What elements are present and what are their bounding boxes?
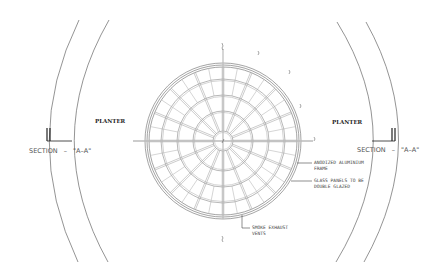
dome-sub-rib xyxy=(182,179,198,202)
plan-drawing: SECTION – "A–A" SECTION – "A–A" PLANTER … xyxy=(0,0,437,274)
dome-sub-rib xyxy=(261,100,284,116)
dome-sub-rib xyxy=(249,79,265,102)
annotation-frame: ANODIZED ALUMINIUM FRAME xyxy=(314,160,367,171)
planter-label-right: PLANTER xyxy=(332,119,363,125)
annotation-glass: GLASS PANELS TO BE DOUBLE GLAZED xyxy=(314,178,367,189)
left-outer-arc xyxy=(74,20,109,262)
section-label-left: SECTION – "A–A" xyxy=(29,147,91,155)
annotation-vents: SMOKE EXHAUST VENTS xyxy=(252,225,291,236)
dome-sub-rib xyxy=(182,79,198,102)
section-marker-right xyxy=(372,128,395,141)
dome-sub-rib xyxy=(161,167,184,183)
dome-sub-rib xyxy=(161,100,184,116)
skylight-dome xyxy=(133,49,313,219)
dome-sub-rib xyxy=(261,167,284,183)
planter-label-left: PLANTER xyxy=(95,118,126,124)
section-marker-left xyxy=(47,128,72,141)
dome-sub-rib xyxy=(249,179,265,202)
right-inner-arc xyxy=(336,22,373,262)
right-outer-arc xyxy=(364,22,399,262)
section-label-right: SECTION – "A–A" xyxy=(357,146,419,154)
